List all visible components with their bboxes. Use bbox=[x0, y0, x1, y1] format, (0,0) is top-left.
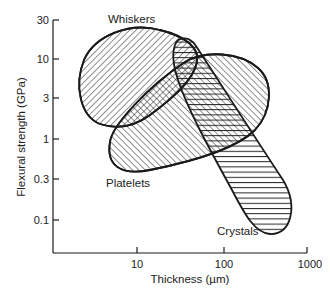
y-tick-0-3: 0.3 bbox=[34, 173, 49, 185]
y-tick-labels: 30 10 3 1 0.3 0.1 bbox=[34, 14, 49, 226]
crystals-label: Crystals bbox=[217, 225, 259, 237]
y-tick-1: 1 bbox=[43, 133, 49, 145]
y-tick-30: 30 bbox=[37, 14, 49, 26]
y-tick-10: 10 bbox=[37, 53, 49, 65]
x-axis-title: Thickness (µm) bbox=[151, 273, 230, 285]
chart: 30 10 3 1 0.3 0.1 10 100 1000 Thickness … bbox=[0, 0, 330, 291]
x-axis bbox=[53, 247, 307, 253]
y-tick-0-1: 0.1 bbox=[34, 214, 49, 226]
x-tick-labels: 10 100 1000 bbox=[131, 258, 322, 270]
x-tick-1000: 1000 bbox=[298, 258, 322, 270]
y-axis-title: Flexural strength (GPa) bbox=[15, 77, 27, 197]
platelets-label: Platelets bbox=[106, 177, 150, 189]
y-tick-3: 3 bbox=[43, 92, 49, 104]
whiskers-label: Whiskers bbox=[108, 13, 156, 25]
y-axis bbox=[53, 20, 59, 253]
x-tick-100: 100 bbox=[215, 258, 233, 270]
x-tick-10: 10 bbox=[131, 258, 143, 270]
